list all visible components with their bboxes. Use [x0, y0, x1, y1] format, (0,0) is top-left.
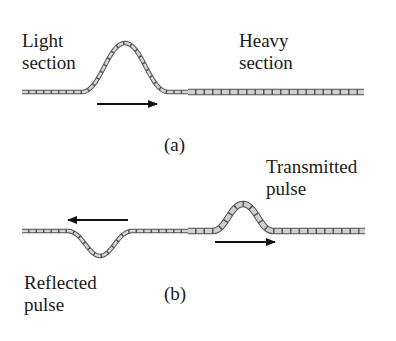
label-line: section	[239, 52, 293, 74]
heavy-string-b	[188, 204, 365, 231]
label-line: Light	[22, 30, 76, 52]
transmitted-pulse-label: Transmitted pulse	[266, 156, 357, 200]
heavy-section-label: Heavy section	[239, 30, 293, 74]
label-line: pulse	[24, 294, 97, 316]
light-section-label: Light section	[22, 30, 76, 74]
label-line: Transmitted	[266, 156, 357, 178]
light-string-b	[22, 231, 190, 256]
reflected-pulse-label: Reflected pulse	[24, 272, 97, 316]
caption-b: (b)	[164, 283, 186, 305]
caption-a: (a)	[164, 134, 185, 156]
label-line: pulse	[266, 178, 357, 200]
label-line: section	[22, 52, 76, 74]
label-line: Reflected	[24, 272, 97, 294]
label-line: Heavy	[239, 30, 293, 52]
